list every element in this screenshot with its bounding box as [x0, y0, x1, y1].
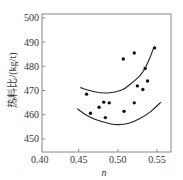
x-tick-label: 0.45	[70, 154, 88, 165]
x-tick-label: 0.50	[109, 154, 127, 165]
data-point	[136, 84, 139, 87]
data-point	[133, 101, 136, 104]
data-point	[122, 110, 125, 113]
y-tick-label: 470	[24, 85, 39, 96]
x-axis-label: n	[102, 167, 107, 178]
upper-bound-curve	[80, 47, 153, 93]
data-point	[144, 67, 147, 70]
y-tick-label: 450	[24, 133, 39, 144]
data-point	[102, 100, 105, 103]
data-point	[146, 79, 149, 82]
plot-border	[42, 14, 171, 152]
plot-frame	[42, 14, 171, 152]
y-tick-label: 480	[24, 61, 39, 72]
y-tick-label: 490	[24, 37, 39, 48]
data-point	[89, 112, 92, 115]
y-axis-label: 热料比/(kg/t)	[6, 53, 19, 108]
y-tick-label: 460	[24, 109, 39, 120]
x-axis-ticks: 0.400.450.500.55	[31, 149, 166, 165]
data-point	[141, 88, 144, 91]
scatter-points	[85, 46, 156, 119]
data-point	[122, 57, 125, 60]
data-point	[104, 116, 107, 119]
x-tick-label: 0.55	[148, 154, 166, 165]
chart-canvas: 450460470480490500 0.400.450.500.55 n 热料…	[0, 0, 183, 180]
y-tick-label: 500	[24, 12, 39, 23]
x-tick-label: 0.40	[31, 154, 49, 165]
data-point	[153, 46, 156, 49]
data-point	[97, 106, 100, 109]
data-point	[133, 51, 136, 54]
data-point	[85, 92, 88, 95]
data-point	[108, 101, 111, 104]
